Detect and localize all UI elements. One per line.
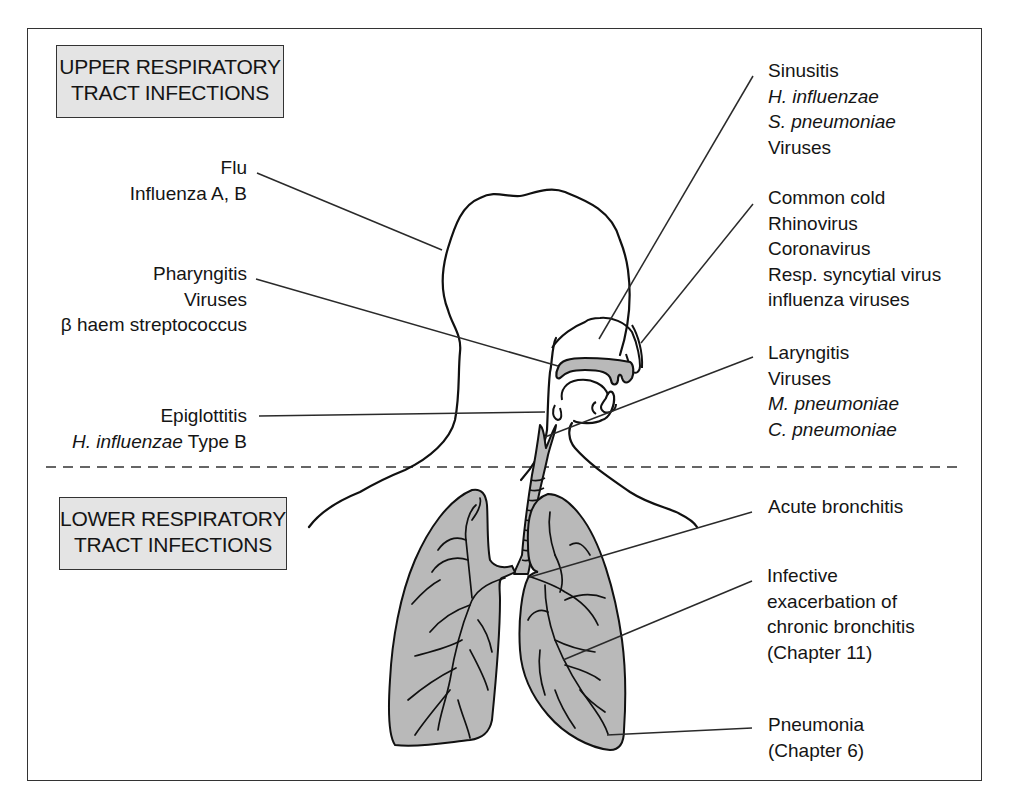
label-common-cold: Common cold Rhinovirus Coronavirus Resp.… <box>768 185 941 313</box>
organism: Viruses <box>61 287 247 313</box>
chapter-reference: (Chapter 11) <box>767 640 915 666</box>
condition-name: Pharyngitis <box>61 261 247 287</box>
organism: Viruses <box>768 366 899 392</box>
leader-flu <box>257 173 442 250</box>
organism: Resp. syncytial virus <box>768 262 941 288</box>
organism: Influenza A, B <box>130 181 247 207</box>
condition-name: Common cold <box>768 185 941 211</box>
label-laryngitis: Laryngitis Viruses M. pneumoniae C. pneu… <box>768 340 899 442</box>
organism-italic: H. influenzae <box>72 431 183 452</box>
label-acute-bronchitis: Acute bronchitis <box>768 494 903 520</box>
label-flu: Flu Influenza A, B <box>130 155 247 206</box>
upper-title-line1: UPPER RESPIRATORY <box>57 54 283 80</box>
leader-pneumonia <box>607 728 752 735</box>
leader-common-cold <box>641 204 753 343</box>
organism: Rhinovirus <box>768 211 941 237</box>
organism-italic: H. influenzae <box>768 84 896 110</box>
left-lung <box>389 490 515 746</box>
organism-italic: S. pneumoniae <box>768 109 896 135</box>
chapter-reference: (Chapter 6) <box>768 738 864 764</box>
condition-name: Pneumonia <box>768 712 864 738</box>
condition-name: Epiglottitis <box>72 403 247 429</box>
leader-pharyngitis <box>256 279 558 366</box>
text-line: Infective <box>767 563 915 589</box>
label-sinusitis: Sinusitis H. influenzae S. pneumoniae Vi… <box>768 58 896 160</box>
label-pneumonia: Pneumonia (Chapter 6) <box>768 712 864 763</box>
organism: influenza viruses <box>768 287 941 313</box>
text-line: exacerbation of <box>767 589 915 615</box>
organism: Coronavirus <box>768 236 941 262</box>
condition-name: Sinusitis <box>768 58 896 84</box>
organism-line: H. influenzae Type B <box>72 429 247 455</box>
label-pharyngitis: Pharyngitis Viruses β haem streptococcus <box>61 261 247 338</box>
condition-name: Acute bronchitis <box>768 494 903 520</box>
upper-tract-title-box: UPPER RESPIRATORY TRACT INFECTIONS <box>56 45 284 118</box>
leader-lines <box>256 76 753 735</box>
organism-italic: M. pneumoniae <box>768 391 899 417</box>
organism-suffix: Type B <box>183 431 247 452</box>
organism: β haem streptococcus <box>61 312 247 338</box>
condition-name: Laryngitis <box>768 340 899 366</box>
condition-name: Flu <box>130 155 247 181</box>
organism: Viruses <box>768 135 896 161</box>
leader-epiglottitis <box>259 412 545 416</box>
label-epiglottitis: Epiglottitis H. influenzae Type B <box>72 403 247 454</box>
lower-title-line1: LOWER RESPIRATORY <box>60 506 286 532</box>
upper-title-line2: TRACT INFECTIONS <box>57 80 283 106</box>
right-lung <box>519 494 625 750</box>
text-line: chronic bronchitis <box>767 614 915 640</box>
lower-tract-title-box: LOWER RESPIRATORY TRACT INFECTIONS <box>59 497 287 570</box>
organism-italic: C. pneumoniae <box>768 417 899 443</box>
label-infective-exacerbation: Infective exacerbation of chronic bronch… <box>767 563 915 665</box>
lower-title-line2: TRACT INFECTIONS <box>60 532 286 558</box>
